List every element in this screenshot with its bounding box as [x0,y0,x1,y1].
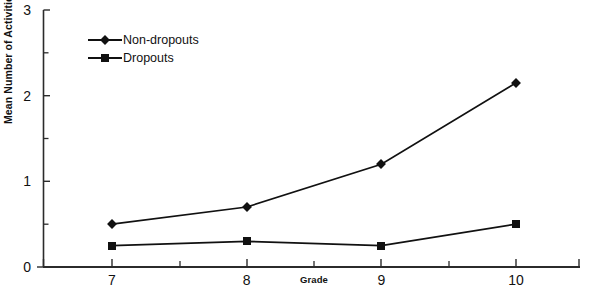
data-point-square [108,242,116,250]
x-tick-label: 9 [377,272,385,288]
x-tick-label: 8 [243,272,251,288]
chart-container: Mean Number of Activities [0,0,601,301]
data-point-square [243,237,251,245]
legend: Non-dropouts Dropouts [88,31,199,67]
x-axis-title: Grade [300,274,328,285]
y-tick-label: 3 [5,2,31,18]
y-tick-label: 2 [5,88,31,104]
legend-label-dropouts: Dropouts [123,51,174,65]
series-line-dropouts [112,224,516,245]
series-line-non-dropouts [112,83,516,224]
data-point-square [512,220,520,228]
y-tick-label: 0 [5,259,31,275]
legend-item-non-dropouts: Non-dropouts [88,31,199,49]
legend-item-dropouts: Dropouts [88,49,199,67]
x-tick-label: 10 [508,272,524,288]
legend-marker-diamond-icon [88,33,122,47]
data-point-square [377,242,385,250]
x-tick-label: 7 [108,272,116,288]
y-tick-label: 1 [5,173,31,189]
x-axis-ticks [44,259,580,267]
legend-label-non-dropouts: Non-dropouts [123,33,199,47]
legend-marker-square-icon [88,51,122,65]
